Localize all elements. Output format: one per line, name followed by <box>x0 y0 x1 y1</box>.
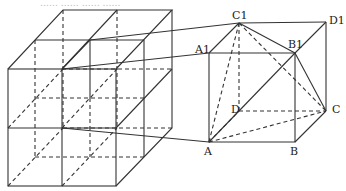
edge-a1-c1 <box>209 23 239 53</box>
label-c1: C1 <box>232 9 247 22</box>
unit-cube: C1 D1 A1 B1 D C A B <box>194 9 345 158</box>
hidden-edge-a-c1 <box>209 23 239 142</box>
label-b1: B1 <box>288 38 303 51</box>
label-a1: A1 <box>194 43 210 56</box>
edge-c1-b1 <box>239 23 295 53</box>
edge-b-c <box>295 111 326 142</box>
label-b: B <box>290 145 298 158</box>
projection-line-a1 <box>62 53 209 69</box>
edge-c1-d1 <box>239 22 326 23</box>
hidden-edge-a-c <box>209 111 326 142</box>
label-d: D <box>231 103 240 116</box>
cut-off-title-text: …… …… …… …… <box>40 0 121 8</box>
edge-a-b1 <box>209 53 295 142</box>
projection-line-a <box>62 128 209 142</box>
label-d1: D1 <box>329 14 345 27</box>
label-a: A <box>203 145 213 158</box>
geometry-diagram: …… …… …… …… <box>0 0 346 191</box>
label-c: C <box>332 103 340 116</box>
edge-b1-c <box>295 53 326 111</box>
projection-line-c1 <box>90 23 239 40</box>
composite-cube <box>8 10 172 186</box>
inner-cube-edge-2 <box>62 40 90 69</box>
